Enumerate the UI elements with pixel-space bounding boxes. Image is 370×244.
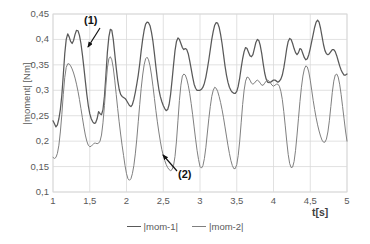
legend-line-swatch [127, 226, 141, 227]
legend-label: |mom-2| [209, 221, 244, 232]
legend-label: |mom-1| [144, 221, 179, 232]
chart-legend: |mom-1||mom-2| [0, 221, 370, 232]
legend-item-1[interactable]: |mom-1| [127, 221, 179, 232]
annotation-1-label: (1) [84, 14, 97, 26]
legend-item-2[interactable]: |mom-2| [192, 221, 244, 232]
plot-area [0, 0, 370, 244]
moment-line-chart: |moment| [Nm] 0,450,40,350,30,250,20,150… [0, 0, 370, 244]
annotation-2-label: (2) [178, 168, 191, 180]
legend-line-swatch [192, 226, 206, 227]
